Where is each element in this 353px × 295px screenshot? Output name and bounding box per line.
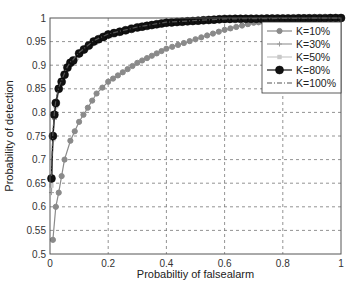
legend-label: K=50% <box>296 51 330 63</box>
y-tick-label: 0.95 <box>27 36 47 47</box>
circle-marker <box>69 56 77 64</box>
circle-marker <box>90 98 95 103</box>
legend-label: K=10% <box>296 25 330 37</box>
circle-marker <box>81 112 86 117</box>
circle-marker <box>77 119 82 124</box>
y-tick-label: 0.7 <box>32 154 46 165</box>
circle-marker <box>210 31 215 36</box>
y-tick-label: 0.85 <box>27 83 47 94</box>
legend-label: K=30% <box>296 38 330 50</box>
x-tick-label: 1 <box>338 258 344 269</box>
y-tick-label: 0.9 <box>32 60 46 71</box>
legend-label: K=100% <box>296 77 336 89</box>
y-tick-label: 0.75 <box>27 131 47 142</box>
circle-marker <box>181 40 186 45</box>
circle-marker <box>170 44 175 49</box>
circle-marker <box>239 23 244 28</box>
y-tick-label: 0.55 <box>27 225 47 236</box>
circle-marker <box>228 26 233 31</box>
y-tick-label: 0.6 <box>32 201 46 212</box>
circle-marker <box>193 37 198 42</box>
roc-chart: 00.20.40.60.81 0.50.550.60.650.70.750.80… <box>0 0 353 295</box>
circle-marker <box>234 24 239 29</box>
y-tick-label: 0.65 <box>27 178 47 189</box>
circle-marker <box>199 35 204 40</box>
y-tick-label: 0.5 <box>32 249 46 260</box>
circle-marker <box>85 105 90 110</box>
circle-marker <box>50 237 55 242</box>
circle-marker <box>62 157 67 162</box>
circle-marker <box>94 91 99 96</box>
circle-marker <box>115 73 120 78</box>
circle-marker <box>205 33 210 38</box>
circle-marker <box>130 63 135 68</box>
y-tick-label: 1 <box>40 13 46 24</box>
legend-label: K=80% <box>296 64 330 76</box>
circle-marker <box>56 190 61 195</box>
circle-marker <box>216 29 221 34</box>
x-tick-label: 0.2 <box>101 258 115 269</box>
x-tick-label: 0.8 <box>276 258 290 269</box>
circle-marker <box>276 66 284 74</box>
y-axis-label: Probability of detection <box>3 80 15 191</box>
y-tick-label: 0.8 <box>32 107 46 118</box>
circle-marker <box>175 42 180 47</box>
circle-marker <box>68 138 73 143</box>
circle-marker <box>125 67 130 72</box>
circle-marker <box>222 27 227 32</box>
x-tick-label: 0 <box>47 258 53 269</box>
circle-marker <box>58 78 66 86</box>
circle-marker <box>164 46 169 51</box>
circle-marker <box>53 204 58 209</box>
legend: K=10%K=30%K=50%K=80%K=100% <box>262 22 341 93</box>
x-axis-label: Probabiltiy of falsealarm <box>137 268 254 280</box>
circle-marker <box>106 79 111 84</box>
circle-marker <box>59 174 64 179</box>
circle-marker <box>100 85 105 90</box>
circle-marker <box>110 76 115 81</box>
circle-marker <box>72 129 77 134</box>
circle-marker <box>120 70 125 75</box>
circle-marker <box>277 28 282 33</box>
square-marker <box>277 55 281 59</box>
circle-marker <box>187 39 192 44</box>
